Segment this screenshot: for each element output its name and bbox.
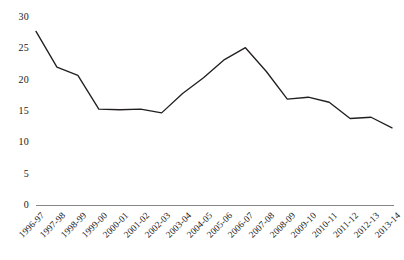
data-line: [36, 31, 392, 128]
line-chart-figure: 051015202530 1996-971997-981998-991999-0…: [0, 0, 404, 260]
series-plot: [0, 0, 404, 260]
